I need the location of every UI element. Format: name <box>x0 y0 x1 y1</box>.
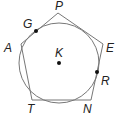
point-r <box>95 70 99 74</box>
point-label-g: G <box>23 17 32 31</box>
point-label-k: K <box>55 46 64 60</box>
point-g <box>34 29 38 33</box>
vertex-label-n: N <box>83 102 92 116</box>
point-k <box>57 61 61 65</box>
diagram-canvas: PENTAKGR <box>0 0 117 116</box>
pentagon-inscribed-circle-diagram: PENTAKGR <box>0 0 117 116</box>
vertex-label-e: E <box>106 41 115 55</box>
vertex-label-a: A <box>3 41 12 55</box>
vertex-label-t: T <box>27 102 36 116</box>
points-layer <box>34 29 99 74</box>
point-label-r: R <box>101 74 110 88</box>
vertex-label-p: P <box>55 0 63 13</box>
